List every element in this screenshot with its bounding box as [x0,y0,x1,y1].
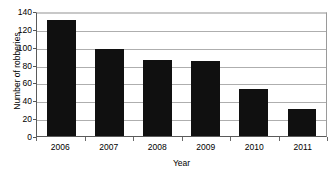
x-axis-tick-mark [230,137,231,141]
x-axis-tick-marks [36,137,327,141]
x-axis-tick-mark [182,137,183,141]
y-axis-tick-mark [33,30,36,31]
x-axis-tick-mark [133,137,134,141]
y-axis-tick-mark [33,83,36,84]
y-axis-tick-mark [33,66,36,67]
x-axis-tick-mark [85,137,86,141]
x-axis-tick-label: 2006 [36,142,85,152]
x-axis-tick-mark [327,137,328,141]
y-axis-tick-mark [33,101,36,102]
x-axis-tick-label: 2010 [230,142,279,152]
bar[interactable] [143,60,172,136]
x-axis-tick-label: 2007 [85,142,134,152]
bar-slot [182,13,230,136]
y-axis-tick-mark [33,119,36,120]
plot-area [36,12,327,137]
y-axis-tick-label: 40 [10,97,32,106]
y-axis-tick-label: 140 [10,8,32,17]
x-axis-tick-mark [279,137,280,141]
bar[interactable] [191,61,220,136]
x-axis-tick-label: 2009 [182,142,231,152]
y-axis-tick-labels: 140120100806040200 [10,12,32,137]
bar-slot [37,13,85,136]
x-axis-tick-labels: 200620072008200920102011 [36,142,327,152]
bar-slot [278,13,326,136]
y-axis-tick-mark [33,12,36,13]
bar[interactable] [239,89,268,136]
x-axis-tick-label: 2008 [133,142,182,152]
bar[interactable] [47,20,76,136]
y-axis-tick-mark [33,137,36,138]
bar[interactable] [288,109,317,136]
x-axis-tick-mark [36,137,37,141]
bar-slot [230,13,278,136]
bar[interactable] [95,49,124,136]
bar-slot [85,13,133,136]
bar-chart: Number of robberies 140120100806040200 2… [0,0,332,176]
y-axis-tick-label: 60 [10,79,32,88]
bar-slot [133,13,181,136]
x-axis-tick-label: 2011 [279,142,328,152]
bars-group [37,13,326,136]
y-axis-tick-label: 0 [10,133,32,142]
y-axis-tick-label: 120 [10,26,32,35]
y-axis-tick-label: 80 [10,61,32,70]
y-axis-tick-mark [33,48,36,49]
y-axis-tick-label: 20 [10,115,32,124]
x-axis-title: Year [36,158,327,168]
y-axis-tick-label: 100 [10,43,32,52]
